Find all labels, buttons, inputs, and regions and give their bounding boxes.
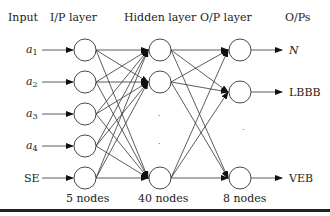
- ip-node: [74, 135, 96, 157]
- header-ops: O/Ps: [285, 12, 310, 23]
- input-label-se: SE: [24, 173, 40, 184]
- network-diagram: [0, 0, 330, 216]
- hidden-node: [149, 71, 171, 93]
- ip-node: [74, 167, 96, 189]
- op-node: [229, 81, 251, 103]
- header-ip-layer: I/P layer: [50, 12, 97, 23]
- op-node-count: 8 nodes: [223, 193, 266, 204]
- ip-node: [74, 103, 96, 125]
- op-ellipsis: ·: [242, 126, 245, 134]
- output-label-veb: VEB: [289, 173, 313, 184]
- header-input: Input: [8, 12, 38, 23]
- hidden-node-count: 40 nodes: [138, 193, 188, 204]
- input-label-a3: a3: [26, 108, 38, 121]
- header-hidden-layer: Hidden layer: [124, 12, 196, 23]
- hidden-ellipsis-2: ·: [158, 140, 161, 148]
- input-label-a4: a4: [26, 140, 38, 153]
- hidden-ellipsis-1: ·: [158, 112, 161, 120]
- op-node: [229, 167, 251, 189]
- hidden-node: [149, 39, 171, 61]
- output-label-n: N: [289, 45, 299, 56]
- hidden-node: [149, 167, 171, 189]
- op-node: [229, 39, 251, 61]
- ip-node: [74, 71, 96, 93]
- ip-node: [74, 39, 96, 61]
- header-op-layer: O/P layer: [200, 12, 252, 23]
- output-label-lbbb: LBBB: [289, 87, 321, 98]
- bottom-rule: [0, 209, 330, 212]
- input-label-a2: a2: [26, 76, 38, 89]
- ip-node-count: 5 nodes: [66, 193, 109, 204]
- input-label-a1: a1: [26, 44, 38, 57]
